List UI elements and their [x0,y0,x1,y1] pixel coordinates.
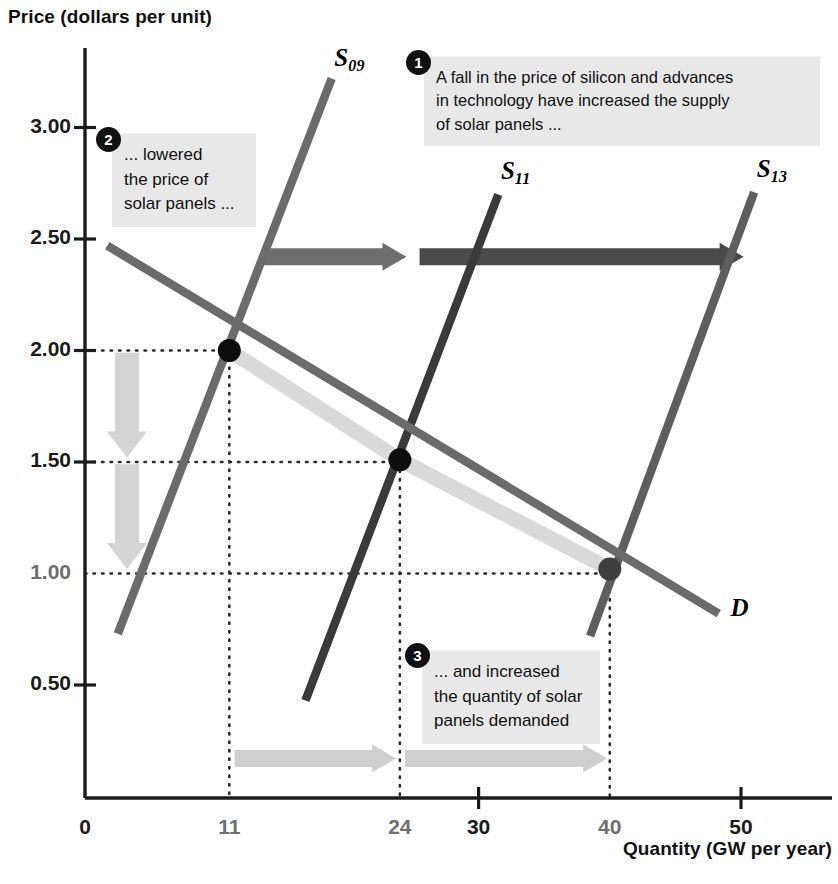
callout-3-line-3: panels demanded [434,709,588,734]
x-tick-label-0: 0 [55,815,115,839]
callout-1-line-1: A fall in the price of silicon and advan… [436,66,808,89]
y-tick-label-2.50: 2.50 [1,225,71,249]
y-tick-label-2.00: 2.00 [1,337,71,361]
x-tick-label-24: 24 [370,815,430,839]
callout-box-1: A fall in the price of silicon and advan… [424,56,820,146]
callout-2-line-1: ... lowered [124,143,244,168]
quantity-increase-arrow-2 [405,745,607,773]
callout-badge-2: 2 [96,127,121,152]
shift-arrow-layer [262,243,744,271]
callout-3-line-2: the quantity of solar [434,685,588,710]
equilibrium-point-2 [388,448,411,471]
callout-box-2: ... loweredthe price ofsolar panels ... [112,133,256,227]
curve-label-base: D [731,594,749,621]
curve-label-S11: S11 [501,157,531,185]
callout-1-line-2: in technology have increased the supply [436,89,808,112]
curve-label-base: S [334,44,348,71]
x-tick-label-40: 40 [580,815,640,839]
curve-label-S13: S13 [757,155,788,183]
quantity-increase-arrow-2-shape [405,745,607,773]
curve-label-subscript: 09 [348,57,365,74]
y-tick-label-0.50: 0.50 [1,671,71,695]
y-axis-title: Price (dollars per unit) [8,6,212,28]
curve-label-S09: S09 [334,44,365,72]
curve-label-base: S [757,155,771,182]
x-tick-label-30: 30 [449,815,509,839]
price-decrease-arrow-1 [107,353,147,458]
callout-3-line-1: ... and increased [434,660,588,685]
price-decrease-arrow-1-shape [107,353,147,458]
curve-label-D: D [731,594,749,622]
callout-1-line-3: of solar panels ... [436,113,808,136]
curve-label-subscript: 11 [515,170,531,187]
highlight-band-layer [229,351,609,570]
price-decrease-arrow-2 [107,464,147,569]
callout-box-3: ... and increasedthe quantity of solarpa… [422,650,600,744]
callout-badge-1: 1 [406,50,431,75]
callout-2-line-2: the price of [124,168,244,193]
y-tick-label-1.00: 1.00 [1,560,71,584]
x-tick-label-11: 11 [199,815,259,839]
supply-shift-arrow-1 [262,243,406,271]
equilibrium-highlight-band [229,351,609,570]
equilibrium-point-1 [218,339,241,362]
supply-shift-arrow-1-shape [262,243,406,271]
y-tick-label-3.00: 3.00 [1,114,71,138]
x-tick-label-50: 50 [711,815,771,839]
callout-badge-3: 3 [405,643,430,668]
callout-2-line-3: solar panels ... [124,192,244,217]
y-tick-label-1.50: 1.50 [1,448,71,472]
x-axis-title: Quantity (GW per year) [623,838,832,860]
price-decrease-arrow-2-shape [107,464,147,569]
quantity-arrow-layer [235,745,608,773]
equilibrium-point-3 [598,558,621,581]
supply-demand-figure: Price (dollars per unit) Quantity (GW pe… [0,0,838,884]
quantity-increase-arrow-1 [235,745,396,773]
curve-label-subscript: 13 [771,168,788,185]
quantity-increase-arrow-1-shape [235,745,396,773]
curve-label-base: S [501,157,515,184]
curve-S11 [305,194,498,700]
